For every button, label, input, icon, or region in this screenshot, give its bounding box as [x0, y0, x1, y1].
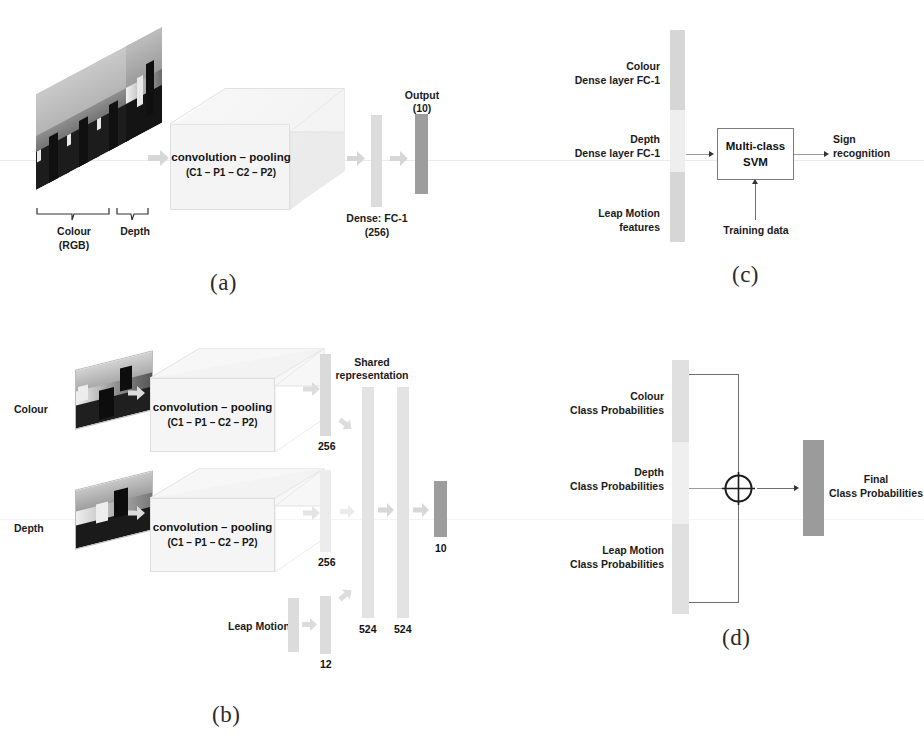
panel-b-arrow-shared1-to-shared2 [378, 503, 395, 517]
panel-b-cube-colour-text: convolution – pooling (C1 – P1 – C2 – P2… [150, 400, 275, 430]
panel-b-conv-cube-depth: convolution – pooling (C1 – P1 – C2 – P2… [150, 468, 325, 572]
panel-b-arrow-depth-to-cube [128, 506, 146, 520]
panel-c-feature-bar-colour [670, 30, 685, 110]
panel-d-line-sum-to-output [757, 488, 797, 489]
brace-colour [36, 206, 112, 222]
panel-c-caption: (c) [732, 262, 759, 288]
panel-c-label-depth-1: Depth [560, 133, 660, 146]
panel-d-bar-leap [672, 524, 689, 614]
panel-b-label-leap: Leap Motion [228, 620, 290, 633]
input-plane-depth [126, 27, 162, 142]
panel-c-output-line2: recognition [833, 147, 890, 160]
panel-a-cube-title: convolution – pooling [171, 151, 290, 163]
panel-b-conv-cube-colour: convolution – pooling (C1 – P1 – C2 – P2… [150, 348, 325, 452]
panel-c-line-svm-to-output [794, 154, 827, 155]
panel-d-label-depth-2: Class Probabilities [560, 480, 664, 493]
panel-a-arrow-input-to-cube [148, 150, 170, 166]
input-plane-colour-b [96, 44, 130, 158]
panel-d-label-leap-1: Leap Motion [560, 544, 664, 557]
panel-c-label-colour-1: Colour [560, 60, 660, 73]
input-plane-colour-r [36, 76, 70, 190]
panel-c: Colour Dense layer FC-1 Depth Dense laye… [560, 0, 924, 310]
panel-c-label-depth-2: Dense layer FC-1 [560, 147, 660, 160]
panel-b-arrow-merge-mid [340, 505, 356, 518]
panel-d-bar-depth [672, 442, 689, 524]
panel-c-training-label: Training data [706, 224, 806, 237]
panel-b-fc-size-colour: 256 [318, 440, 336, 452]
panel-c-label-leap-1: Leap Motion [560, 207, 660, 220]
panel-a-arrow-cube-to-dense [347, 151, 366, 166]
panel-a: Colour (RGB) Depth convolution – pooling… [0, 0, 470, 310]
panel-b-cube-colour-title: convolution – pooling [153, 401, 272, 413]
panel-c-line-training [755, 184, 756, 220]
panel-a-cube-text: convolution – pooling (C1 – P1 – C2 – P2… [170, 150, 292, 180]
panel-d-arrowhead-output [794, 485, 799, 491]
panel-c-arrowhead-training [752, 179, 758, 184]
panel-d-caption: (d) [722, 625, 750, 651]
panel-d-sum-operator-icon [720, 470, 757, 507]
panel-b-fc-size-depth: 256 [318, 556, 336, 568]
panel-b-output-size: 10 [435, 542, 447, 554]
panel-b-arrow-cube-colour-to-fc [303, 382, 321, 396]
panel-a-dense-label: Dense: FC-1 [341, 212, 413, 225]
panel-b-shared-label-1: Shared [325, 356, 419, 369]
panel-a-cube-subtitle: (C1 – P1 – C2 – P2) [186, 167, 276, 178]
panel-a-dense-bar [371, 115, 382, 207]
panel-c-label-leap-2: features [560, 221, 660, 234]
panel-b-cube-depth-title: convolution – pooling [153, 521, 272, 533]
panel-b-arrow-colour-to-cube [128, 386, 146, 400]
panel-b-arrow-leap-to-fc [302, 618, 318, 631]
panel-b-leap-fc-size: 12 [320, 658, 332, 670]
panel-b-cube-depth-subtitle: (C1 – P1 – C2 – P2) [167, 537, 257, 548]
brace-depth [116, 206, 150, 222]
panel-c-svm-line2: SVM [743, 154, 768, 170]
panel-a-label-rgb: (RGB) [40, 239, 108, 252]
panel-a-dense-size: (256) [341, 226, 413, 239]
panel-d-label-colour-2: Class Probabilities [560, 404, 664, 417]
panel-c-label-colour-2: Dense layer FC-1 [560, 74, 660, 87]
panel-b-shared-bar-1 [362, 387, 374, 618]
panel-c-svm-box: Multi-class SVM [717, 128, 794, 180]
panel-d-label-depth-1: Depth [560, 466, 664, 479]
panel-b-arrow-cube-depth-to-fc [303, 506, 321, 520]
panel-d-output-label-2: Class Probabilities [828, 487, 924, 500]
panel-b-arrow-shared-to-output [413, 503, 430, 517]
panel-b-arrow-merge-bottom [336, 584, 357, 604]
panel-b-shared-size-1: 524 [359, 623, 377, 635]
panel-a-label-colour: Colour [40, 225, 108, 238]
panel-c-feature-bar-leap [670, 172, 685, 242]
input-plane-colour-g [66, 60, 100, 174]
panel-b-cube-depth-text: convolution – pooling (C1 – P1 – C2 – P2… [150, 520, 275, 550]
panel-c-output-line1: Sign [833, 133, 856, 146]
panel-d-line-colour-out [689, 374, 739, 375]
panel-a-output-label: Output [392, 89, 452, 102]
panel-b-arrow-merge-top [336, 414, 357, 434]
panel-a-label-depth: Depth [112, 225, 158, 238]
panel-c-arrowhead-output [824, 151, 829, 157]
panel-b-label-colour: Colour [14, 403, 48, 416]
panel-b: Colour Depth convolution – pooling (C1 –… [0, 330, 500, 739]
panel-d: Colour Class Probabilities Depth Class P… [560, 340, 924, 739]
panel-a-output-bar [415, 114, 428, 194]
panel-b-fc-bar-depth [320, 470, 331, 552]
panel-b-label-depth: Depth [14, 522, 44, 535]
panel-c-line-bar-to-svm [686, 154, 710, 155]
panel-b-output-bar [434, 481, 447, 537]
panel-d-line-bracket-bottom [738, 502, 739, 602]
panel-b-leap-fc-bar [320, 596, 331, 654]
panel-c-arrowhead-svm-in [709, 151, 714, 157]
panel-b-shared-bar-2 [397, 387, 409, 618]
panel-d-line-leap-out [689, 602, 739, 603]
panel-d-output-label-1: Final [828, 473, 924, 486]
panel-c-svm-line1: Multi-class [726, 138, 785, 154]
panel-b-shared-label-2: representation [325, 369, 419, 382]
panel-d-line-bracket-top [738, 374, 739, 474]
panel-b-cube-colour-subtitle: (C1 – P1 – C2 – P2) [167, 417, 257, 428]
panel-a-output-size: (10) [392, 102, 452, 115]
panel-b-caption: (b) [212, 702, 240, 728]
panel-d-output-bar [803, 440, 824, 536]
panel-c-feature-bar-depth [670, 110, 685, 172]
panel-d-bar-colour [672, 360, 689, 442]
panel-a-caption: (a) [210, 270, 237, 296]
panel-b-shared-size-2: 524 [394, 623, 412, 635]
